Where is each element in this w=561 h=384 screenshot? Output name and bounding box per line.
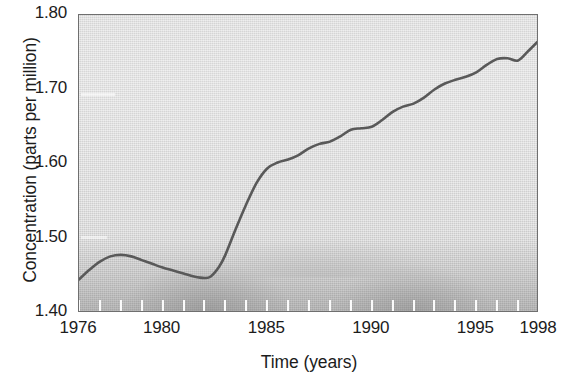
data-line-chart (79, 15, 538, 312)
y-tick-label: 1.80 (5, 3, 67, 23)
x-tick-label: 1998 (508, 318, 561, 338)
x-tick-label: 1980 (132, 318, 192, 338)
x-axis-title: Time (years) (78, 352, 540, 373)
x-tick-label: 1995 (445, 318, 505, 338)
plot-area (78, 14, 538, 312)
x-tick-label: 1990 (341, 318, 401, 338)
y-tick-label: 1.50 (5, 227, 67, 247)
x-tick-label: 1985 (236, 318, 296, 338)
y-tick-label: 1.60 (5, 152, 67, 172)
x-tick-label: 1976 (48, 318, 108, 338)
y-tick-label: 1.70 (5, 78, 67, 98)
series-line-concentration (79, 40, 538, 279)
